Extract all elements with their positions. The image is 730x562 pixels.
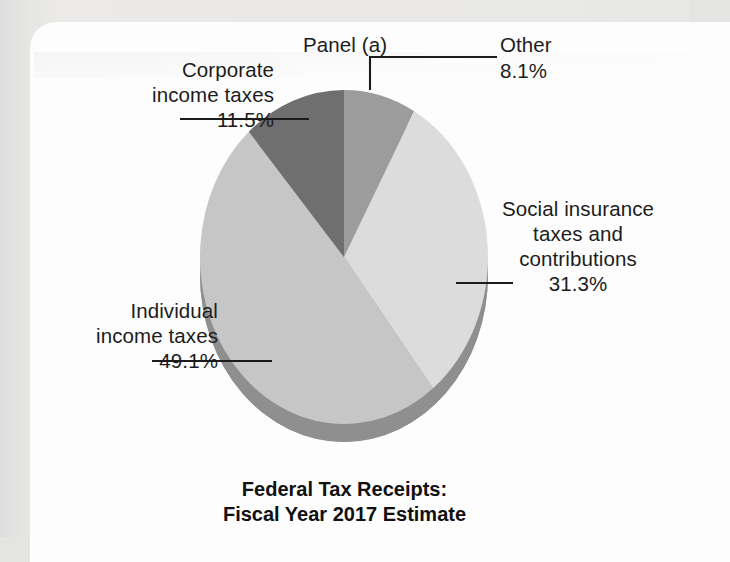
label-individual-line2: income taxes [28,323,218,348]
label-corporate-line1: Corporate [84,57,274,82]
label-social-line3: contributions [487,246,669,271]
label-other-name: Other [500,32,552,57]
figure-title-line2: Fiscal Year 2017 Estimate [0,502,689,527]
label-corporate-line2: income taxes [84,82,274,107]
label-individual-percent: 49.1% [28,348,218,373]
panel-label: Panel (a) [303,32,387,57]
label-social-line2: taxes and [487,221,669,246]
pie-slices [200,90,488,424]
label-social-percent: 31.3% [487,271,669,296]
leader-line-other [370,57,497,90]
label-individual-name: Individual income taxes [28,298,218,348]
label-corporate-percent: 11.5% [84,107,274,132]
label-other-percent: 8.1% [500,58,547,83]
figure-title: Federal Tax Receipts: Fiscal Year 2017 E… [0,477,689,527]
figure-title-line1: Federal Tax Receipts: [0,477,689,502]
label-corporate-name: Corporate income taxes [84,57,274,107]
label-social-name: Social insurance taxes and contributions [487,196,669,271]
label-social-line1: Social insurance [487,196,669,221]
label-individual-line1: Individual [28,298,218,323]
